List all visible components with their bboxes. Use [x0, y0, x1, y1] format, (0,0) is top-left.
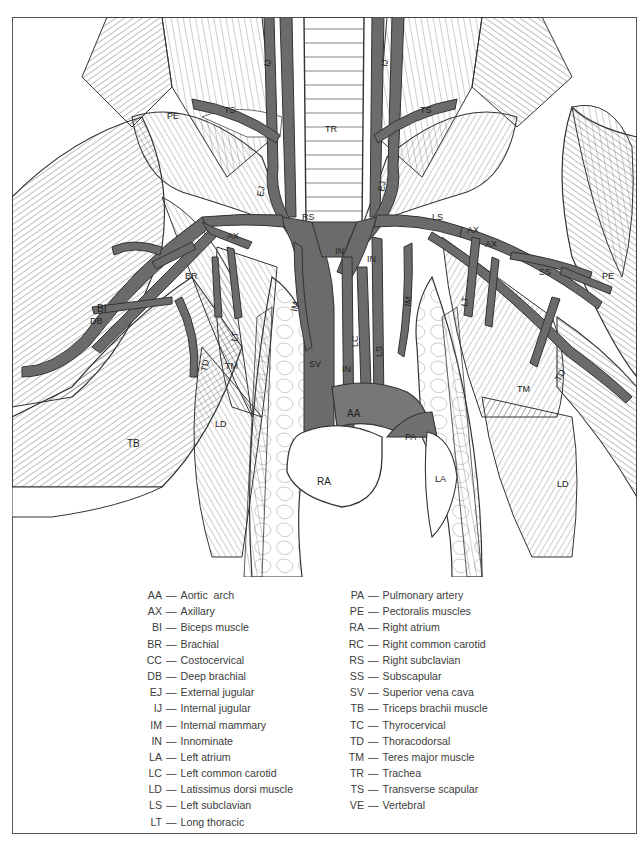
svg-text:EJ: EJ: [255, 185, 267, 197]
svg-text:DB: DB: [90, 316, 103, 326]
svg-text:LA: LA: [435, 474, 446, 484]
svg-text:SV: SV: [309, 359, 321, 369]
legend-item: EJ—External jugular: [140, 684, 293, 700]
legend-item: TS—Transverse scapular: [345, 781, 488, 797]
legend-column-left: AA—Aortic arch AX—Axillary BI—Biceps mus…: [140, 587, 293, 830]
legend-item: PA—Pulmonary artery: [345, 587, 488, 603]
legend-item: TR—Trachea: [345, 765, 488, 781]
svg-text:AX: AX: [227, 231, 239, 241]
legend-item: RS—Right subclavian: [345, 652, 488, 668]
svg-text:TM: TM: [517, 384, 530, 394]
svg-text:RA: RA: [317, 476, 331, 487]
legend-item: LC—Left common carotid: [140, 765, 293, 781]
svg-text:PA: PA: [405, 432, 416, 442]
svg-text:TM: TM: [225, 361, 238, 371]
svg-text:IM: IM: [289, 301, 301, 313]
legend-item: PE—Pectoralis muscles: [345, 603, 488, 619]
svg-text:TS: TS: [420, 105, 432, 115]
legend-item: RA—Right atrium: [345, 619, 488, 635]
svg-text:LD: LD: [215, 419, 227, 429]
svg-text:SS: SS: [539, 267, 551, 277]
legend-item: TB—Triceps brachii muscle: [345, 700, 488, 716]
legend-item: SS—Subscapular: [345, 668, 488, 684]
legend-column-right: PA—Pulmonary artery PE—Pectoralis muscle…: [345, 587, 488, 814]
legend-item: LS—Left subclavian: [140, 797, 293, 813]
svg-text:LS: LS: [374, 346, 384, 357]
svg-text:AX: AX: [467, 225, 479, 235]
legend-item: IJ—Internal jugular: [140, 700, 293, 716]
legend-item: VE—Vertebral: [345, 797, 488, 813]
legend-item: DB—Deep brachial: [140, 668, 293, 684]
anatomical-illustration: TR EJ EJ IJ IJ RS LS IN IN IN SV LC LS A…: [12, 17, 637, 577]
svg-text:PE: PE: [602, 271, 614, 281]
legend-item: CC—Costocervical: [140, 652, 293, 668]
svg-text:LC: LC: [350, 335, 360, 347]
legend-item: SV—Superior vena cava: [345, 684, 488, 700]
svg-text:TS: TS: [224, 105, 236, 115]
svg-text:EJ: EJ: [376, 180, 388, 192]
label-TR: TR: [325, 124, 337, 134]
legend-item: TM—Teres major muscle: [345, 749, 488, 765]
svg-text:IN: IN: [367, 254, 376, 264]
svg-text:AX: AX: [485, 239, 497, 249]
legend-item: LT—Long thoracic: [140, 814, 293, 830]
legend-item: LA—Left atrium: [140, 749, 293, 765]
legend-item: LD—Latissimus dorsi muscle: [140, 781, 293, 797]
svg-text:IN: IN: [335, 246, 344, 256]
svg-text:TB: TB: [127, 438, 140, 449]
legend-item: IM—Internal mammary: [140, 717, 293, 733]
svg-text:RS: RS: [302, 212, 315, 222]
svg-text:AA: AA: [347, 408, 361, 419]
svg-text:IM: IM: [402, 296, 414, 308]
svg-text:PE: PE: [167, 111, 179, 121]
legend-item: AA—Aortic arch: [140, 587, 293, 603]
svg-text:IN: IN: [342, 364, 351, 374]
svg-text:TD: TD: [199, 358, 211, 372]
legend-item: IN—Innominate: [140, 733, 293, 749]
legend-item: BR—Brachial: [140, 636, 293, 652]
svg-text:LS: LS: [432, 212, 443, 222]
legend-item: TC—Thyrocervical: [345, 717, 488, 733]
legend-item: TD—Thoracodorsal: [345, 733, 488, 749]
legend-item: BI—Biceps muscle: [140, 619, 293, 635]
svg-text:BI: BI: [97, 303, 106, 314]
svg-text:LD: LD: [557, 479, 569, 489]
legend-item: RC—Right common carotid: [345, 636, 488, 652]
svg-text:BR: BR: [185, 271, 198, 281]
legend-item: AX—Axillary: [140, 603, 293, 619]
